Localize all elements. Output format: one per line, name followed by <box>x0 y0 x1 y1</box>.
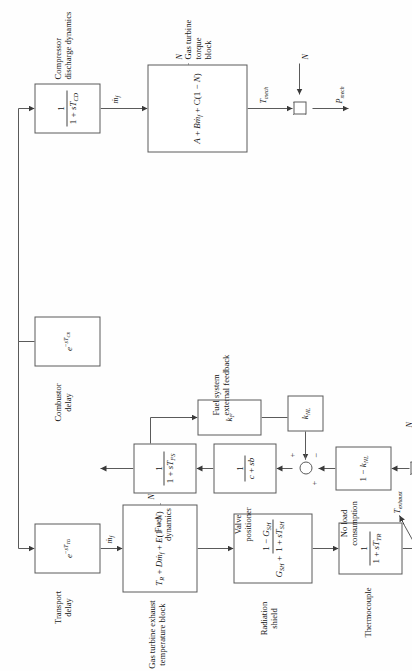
signal-mf-top: ṁf <box>104 535 115 543</box>
block-combustor-delay-expr: e−sTCR <box>61 331 73 350</box>
block-valve-positioner-expr: 1c + sb <box>234 455 256 481</box>
block-turbine-torque[interactable]: A + Bṁf + C(1 − N) <box>147 64 247 152</box>
caption-compressor-discharge: Compressor discharge dynamics <box>52 1 72 79</box>
sum-fuel-command <box>299 462 312 475</box>
block-no-load-consumption-expr: 1 − kNL <box>357 455 369 481</box>
signal-n-torque: N <box>174 54 183 59</box>
caption-fuel-dynamics: Fuel dynamics <box>152 497 172 551</box>
caption-turbine-torque: Gas turbine torque block <box>182 0 212 59</box>
diagram-canvas: e−sTTD Transport delay TR + Dṁf + E(1 −… <box>0 0 412 671</box>
sign-plus-fuel-knl: + <box>286 452 296 457</box>
diagram-rotation-wrapper: e−sTTD Transport delay TR + Dṁf + E(1 −… <box>0 0 412 671</box>
block-fuel-dynamics[interactable]: 11 + sTFS <box>133 443 196 493</box>
block-knl[interactable]: kNL <box>287 395 323 431</box>
caption-thermocouple: Thermocouple <box>362 579 372 645</box>
sign-minus-fuel-feedback: − <box>310 452 320 457</box>
figure-canvas: e−sTTD Transport delay TR + Dṁf + E(1 −… <box>0 0 412 671</box>
block-knl-expr: kNL <box>299 407 311 419</box>
block-fuel-dynamics-expr: 11 + sTFS <box>153 451 176 485</box>
signal-tmech: Tmech <box>258 86 269 103</box>
caption-valve-positioner: Valve positioner <box>232 495 252 553</box>
caption-kf: Fuel system external feedback <box>210 325 230 415</box>
block-compressor-discharge-expr: 11 + sTCD <box>55 90 78 125</box>
block-no-load-consumption[interactable]: 1 − kNL <box>335 446 391 490</box>
signal-n-pmech: N <box>300 54 309 59</box>
block-turbine-torque-expr: A + Bṁf + C(1 − N) <box>191 73 203 144</box>
signal-pmech: Pmech <box>334 86 345 103</box>
signal-n-exhaust: N <box>146 494 155 499</box>
caption-no-load-consumption: No load consumption <box>338 495 358 551</box>
signal-mf-right: ṁf <box>110 95 121 103</box>
signal-t-exhaust: Texhaust <box>392 491 403 513</box>
block-combustor-delay[interactable]: e−sTCR <box>34 316 100 366</box>
block-compressor-discharge[interactable]: 11 + sTCD <box>34 83 100 133</box>
caption-combustor-delay: Combustor delay <box>52 372 72 432</box>
caption-radiation-shield: Radiation shield <box>258 589 278 647</box>
block-transport-delay-expr: e−sTTD <box>61 538 73 557</box>
sign-plus-fuel-noload: + <box>308 480 318 485</box>
block-valve-positioner[interactable]: 1c + sb <box>213 443 276 493</box>
multiplier-mechanical-power <box>293 102 306 115</box>
block-thermocouple-expr: 11 + sTTR <box>358 531 381 565</box>
caption-exhaust-temperature: Gas turbine exhaust temperature block <box>146 595 166 671</box>
block-transport-delay[interactable]: e−sTTD <box>34 523 100 573</box>
signal-n-fuel: N <box>404 422 412 427</box>
caption-transport-delay: Transport delay <box>52 579 72 635</box>
block-radiation-shield-expr: GSH + 1 − GSH1 + sTSH <box>260 519 285 577</box>
